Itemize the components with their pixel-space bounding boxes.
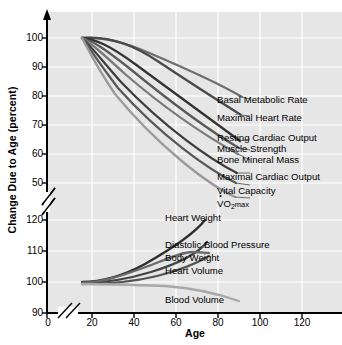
y-tick-70-upper: 70 xyxy=(17,120,43,130)
series-label-vital-capacity: Vital Capacity xyxy=(217,186,275,196)
series-label-heart-volume: Heart Volume xyxy=(165,266,223,276)
series-label-body-weight: Body Weight xyxy=(165,253,219,263)
series-label-blood-volume: Blood Volume xyxy=(165,295,224,305)
y-tick-110-lower: 110 xyxy=(17,246,43,256)
chart-figure: Change Due to Age (percent) 100 90 80 70… xyxy=(0,0,342,345)
y-tick-120-lower: 120 xyxy=(17,215,43,225)
series-label-diastolic-blood-pressure: Diastolic Blood Pressure xyxy=(165,240,270,250)
x-axis-title: Age xyxy=(55,327,335,339)
series-label-maximal-cardiac-output: Maximal Cardiac Output xyxy=(217,172,320,182)
series-label-bone-mineral-mass: Bone Mineral Mass xyxy=(217,155,299,165)
y-tick-100-lower: 100 xyxy=(17,277,43,287)
y-tick-50-upper: 50 xyxy=(17,178,43,188)
y-tick-60-upper: 60 xyxy=(17,149,43,159)
y-axis-tick-labels: 100 90 80 70 60 50 120 110 100 90 xyxy=(17,0,43,320)
series-label-vo2max: VO2max xyxy=(217,199,249,212)
series-label-muscle-strength: Muscle Strength xyxy=(217,144,286,154)
series-label-basal-metabolic-rate: Basal Metabolic Rate xyxy=(217,95,308,105)
vo2max-prefix: VO xyxy=(217,198,231,209)
vo2max-suffix: max xyxy=(235,200,249,209)
series-label-resting-cardiac-output: Resting Cardiac Output xyxy=(217,133,317,143)
series-line-vital-capacity xyxy=(82,38,236,183)
y-tick-80-upper: 80 xyxy=(17,91,43,101)
y-tick-100-upper: 100 xyxy=(17,33,43,43)
y-axis-title: Change Due to Age (percent) xyxy=(5,87,17,234)
series-label-heart-weight: Heart Weight xyxy=(165,213,221,223)
y-tick-90-upper: 90 xyxy=(17,62,43,72)
series-label-maximal-heart-rate: Maximal Heart Rate xyxy=(217,113,302,123)
